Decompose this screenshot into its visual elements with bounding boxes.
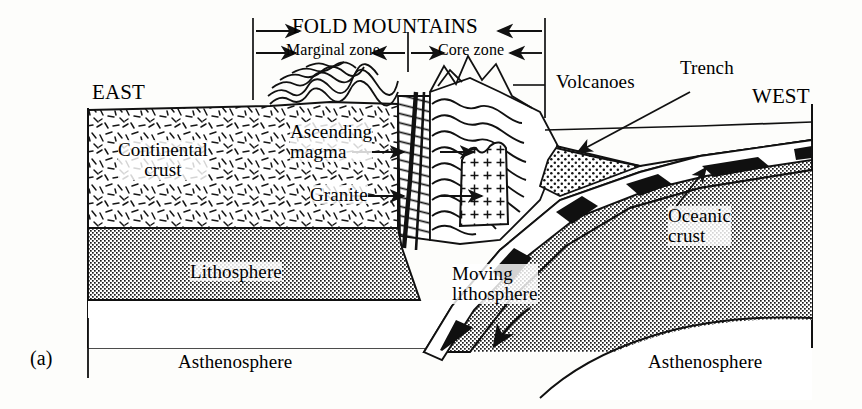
bracket-label-core-zone: Core zone <box>438 42 504 58</box>
panel-label: (a) <box>30 348 53 368</box>
figure-panel: FOLD MOUNTAINS Marginal zone Core zone E… <box>0 0 862 409</box>
label-asthenosphere-left: Asthenosphere <box>178 352 292 371</box>
label-moving-lithosphere: Moving lithosphere <box>452 264 538 304</box>
trench-arrow <box>578 92 690 152</box>
label-ascending-magma: Ascending magma <box>290 122 372 162</box>
label-asthenosphere-right: Asthenosphere <box>648 352 762 371</box>
label-continental-crust: Continental crust <box>118 140 208 180</box>
label-trench: Trench <box>680 58 734 77</box>
granite-pluton <box>460 142 508 226</box>
bracket-label-marginal-zone: Marginal zone <box>286 42 380 58</box>
bracket-label-fold-mountains: FOLD MOUNTAINS <box>292 16 478 37</box>
compass-east: EAST <box>92 82 145 103</box>
mountain-folds-marginal <box>268 62 398 106</box>
label-volcanoes: Volcanoes <box>556 72 635 91</box>
compass-west: WEST <box>752 86 810 107</box>
label-oceanic-crust: Oceanic crust <box>668 206 731 246</box>
label-granite: Granite <box>310 185 368 204</box>
sea-surface-line <box>545 122 812 130</box>
label-lithosphere: Lithosphere <box>190 262 282 281</box>
